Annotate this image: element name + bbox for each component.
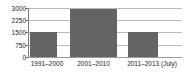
y-tick-label-1500: 1500 <box>12 29 26 36</box>
bar-2011-2013-july <box>128 32 158 57</box>
x-axis-line <box>28 57 182 58</box>
x-tick-label-2001-2010: 2001–2010 <box>70 60 117 68</box>
y-tick-label-2250: 2250 <box>12 17 26 24</box>
bar-chart: 3000 2250 1500 750 0 1991–2000 2001–2010… <box>0 0 186 73</box>
y-tick-label-3000: 3000 <box>12 5 26 12</box>
bar-1991-2000 <box>30 32 57 57</box>
x-axis-tick-labels: 1991–2000 2001–2010 2011–2013 (July) <box>29 60 186 72</box>
x-tick-label-1991-2000: 1991–2000 <box>23 60 71 68</box>
y-tick-label-750: 750 <box>15 42 26 49</box>
x-tick-label-2011-2013-july: 2011–2013 (July) <box>119 60 185 68</box>
bars-layer <box>29 8 182 57</box>
bar-2001-2010 <box>70 9 117 57</box>
